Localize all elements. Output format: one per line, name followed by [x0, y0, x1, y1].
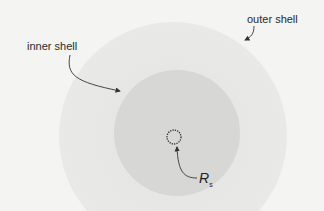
outer-shell-arrow: [245, 26, 254, 40]
radius-symbol: R: [199, 170, 209, 186]
shell-diagram: [0, 0, 324, 211]
inner-shell: [114, 70, 240, 196]
radius-subscript: s: [209, 181, 213, 188]
radius-label: Rs: [199, 170, 213, 188]
inner-shell-label: inner shell: [27, 40, 77, 52]
outer-shell-label: outer shell: [247, 13, 298, 25]
